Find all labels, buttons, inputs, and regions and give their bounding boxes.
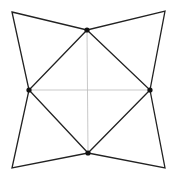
vertex-dot-left (26, 87, 31, 92)
vertex-dot-right (147, 87, 152, 92)
vertex-dot-top (84, 27, 89, 32)
geometric-diagram (0, 0, 172, 178)
vertex-dot-bottom (85, 150, 90, 155)
